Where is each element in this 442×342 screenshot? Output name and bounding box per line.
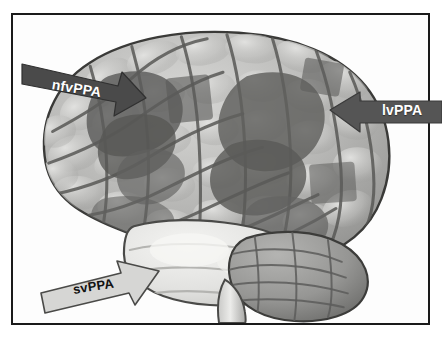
callout-svppa[interactable]: svPPA — [39, 261, 163, 317]
callout-lvppa-label: lvPPA — [382, 102, 422, 118]
callout-nfvppa[interactable]: nfvPPA — [22, 58, 148, 120]
cerebellum — [229, 232, 368, 321]
brain-atrophy-figure: svPPA nfvPPA lvPPA — [0, 0, 442, 342]
callout-lvppa[interactable]: lvPPA — [330, 90, 442, 136]
